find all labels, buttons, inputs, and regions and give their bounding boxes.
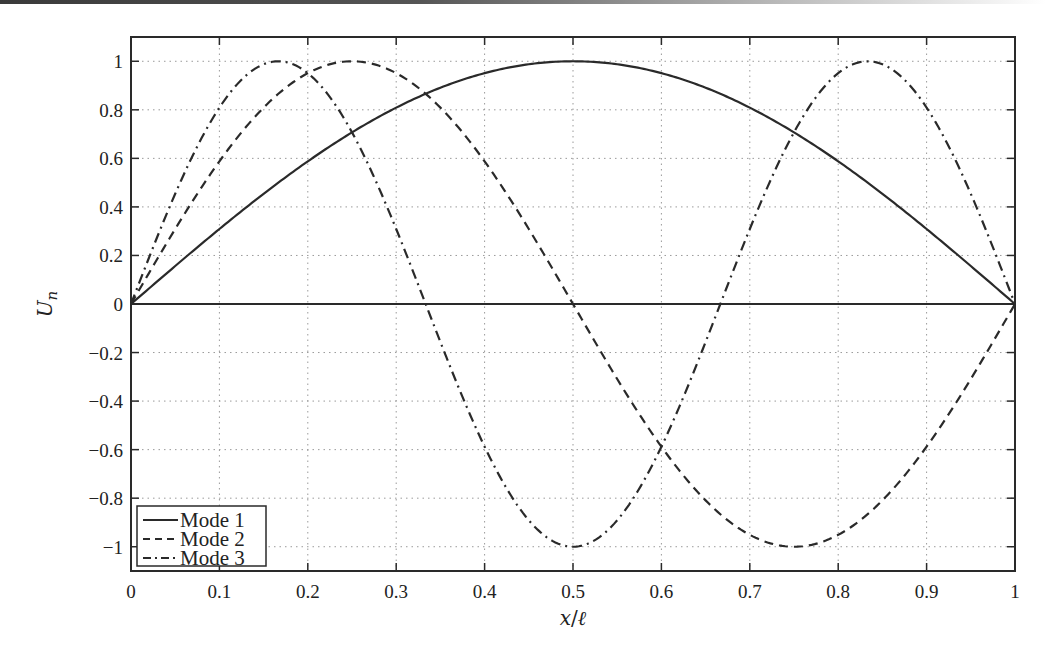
x-tick-label: 0.8 bbox=[826, 581, 850, 602]
chart: 00.10.20.30.40.50.60.70.80.91 10.80.60.4… bbox=[0, 0, 1046, 665]
x-axis-label-ell: ℓ bbox=[578, 606, 587, 630]
y-tick-labels: 10.80.60.40.20−0.2−0.4−0.6−0.8−1 bbox=[89, 51, 124, 557]
y-tick-label: −0.4 bbox=[89, 391, 124, 412]
legend: Mode 1Mode 2Mode 3 bbox=[137, 506, 266, 570]
x-tick-label: 0.6 bbox=[650, 581, 674, 602]
x-tick-label: 0.3 bbox=[384, 581, 408, 602]
y-tick-label: 0.6 bbox=[99, 148, 123, 169]
x-tick-label: 0.5 bbox=[561, 581, 585, 602]
y-axis-label: Un bbox=[33, 291, 61, 318]
x-tick-label: 0.9 bbox=[915, 581, 939, 602]
y-tick-label: 0.2 bbox=[99, 245, 123, 266]
svg-text:Un: Un bbox=[33, 291, 61, 318]
y-tick-label: −0.8 bbox=[89, 488, 123, 509]
y-tick-label: 1 bbox=[114, 51, 124, 72]
y-axis-label-sub: n bbox=[43, 291, 61, 301]
x-tick-label: 0.4 bbox=[473, 581, 497, 602]
x-tick-label: 0.7 bbox=[738, 581, 762, 602]
x-tick-label: 0.1 bbox=[208, 581, 232, 602]
x-tick-label: 0 bbox=[126, 581, 136, 602]
y-tick-label: 0.8 bbox=[99, 100, 123, 121]
x-axis-label-x: x bbox=[560, 606, 571, 630]
x-tick-labels: 00.10.20.30.40.50.60.70.80.91 bbox=[126, 581, 1020, 602]
y-axis-label-main: U bbox=[33, 299, 57, 317]
series-group bbox=[131, 61, 1015, 546]
x-tick-label: 0.2 bbox=[296, 581, 320, 602]
y-tick-label: 0.4 bbox=[99, 197, 123, 218]
y-tick-label: 0 bbox=[114, 294, 124, 315]
legend-label: Mode 3 bbox=[180, 546, 245, 570]
y-tick-label: −0.6 bbox=[89, 440, 123, 461]
x-tick-label: 1 bbox=[1010, 581, 1020, 602]
y-tick-label: −1 bbox=[103, 537, 123, 558]
x-axis-label: x/ℓ bbox=[560, 606, 587, 630]
y-tick-label: −0.2 bbox=[89, 343, 123, 364]
